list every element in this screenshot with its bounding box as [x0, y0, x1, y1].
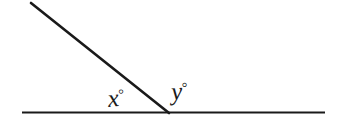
angle-label-x: x° — [106, 84, 125, 111]
degree-symbol-x: ° — [118, 86, 125, 102]
angle-label-y: y° — [170, 78, 188, 104]
degree-symbol-y: ° — [181, 80, 188, 95]
angle-diagram-figure: x° y° — [0, 0, 344, 121]
slanted-ray — [31, 3, 169, 113]
